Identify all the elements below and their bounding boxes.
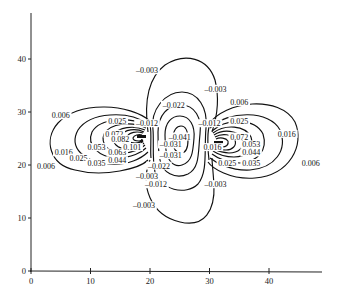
contour-label: 0.044 [108,156,126,165]
contour-label: 0.016 [203,143,221,152]
contour-label: 0.006 [52,111,70,120]
contour-label: 0.025 [70,154,88,163]
contour-label: 0.025 [230,117,248,126]
contour-label: 0.016 [278,130,296,139]
x-tick-label: 30 [205,276,214,286]
contour-label: 0.025 [218,159,236,168]
left-source-mark [137,135,146,138]
contour-label: 0.035 [242,159,260,168]
contour-label: –0.031 [159,140,182,149]
contour-label: 0.006 [230,98,248,107]
y-tick-label: 10 [18,213,27,223]
contour-label: 0.044 [242,148,260,157]
contour-label: –0.003 [135,66,158,75]
contour-label: –0.003 [132,201,155,210]
contour-label: 0.101 [123,143,141,152]
y-ticks: 010203040 [18,54,32,276]
y-tick-label: 0 [22,266,26,276]
y-tick-label: 30 [18,107,27,117]
contour-label: –0.031 [159,151,182,160]
contour-label: –0.003 [203,85,226,94]
contour-label: 0.006 [302,159,320,168]
contour-label: –0.003 [203,180,226,189]
contour-plot: –0.003–0.003–0.022–0.012–0.012–0.041–0.0… [0,0,338,306]
x-tick-label: 0 [29,276,33,286]
contour-label: 0.006 [37,162,55,171]
contour-label: –0.012 [144,180,167,189]
x-tick-label: 20 [146,276,155,286]
y-tick-label: 40 [18,54,27,64]
x-tick-label: 40 [265,276,274,286]
contour-label: 0.035 [87,159,105,168]
y-tick-label: 20 [18,160,27,170]
x-tick-label: 10 [86,276,95,286]
contour-label: –0.022 [162,101,185,110]
contour-label: –0.022 [147,162,170,171]
contour-label: 0.025 [108,117,126,126]
contour-label: –0.012 [135,119,158,128]
contour-label: 0.053 [87,143,105,152]
contour-label: –0.012 [198,119,221,128]
x-axis [30,271,322,272]
contour-labels: –0.003–0.003–0.022–0.012–0.012–0.041–0.0… [35,66,321,210]
contour-bridge-left [150,125,151,158]
